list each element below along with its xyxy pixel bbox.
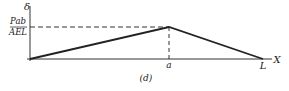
x-tick-a: a xyxy=(166,60,171,70)
y-value-numerator: Pab xyxy=(9,16,26,26)
influence-diagram: δ Pab AEL a L X (d) xyxy=(0,0,289,91)
figure-caption: (d) xyxy=(140,73,153,83)
x-axis-label: X xyxy=(272,54,281,65)
y-axis-label: δ xyxy=(24,1,30,12)
x-tick-L: L xyxy=(259,60,267,71)
y-value-denominator: AEL xyxy=(8,27,27,37)
deflection-curve xyxy=(30,27,263,59)
